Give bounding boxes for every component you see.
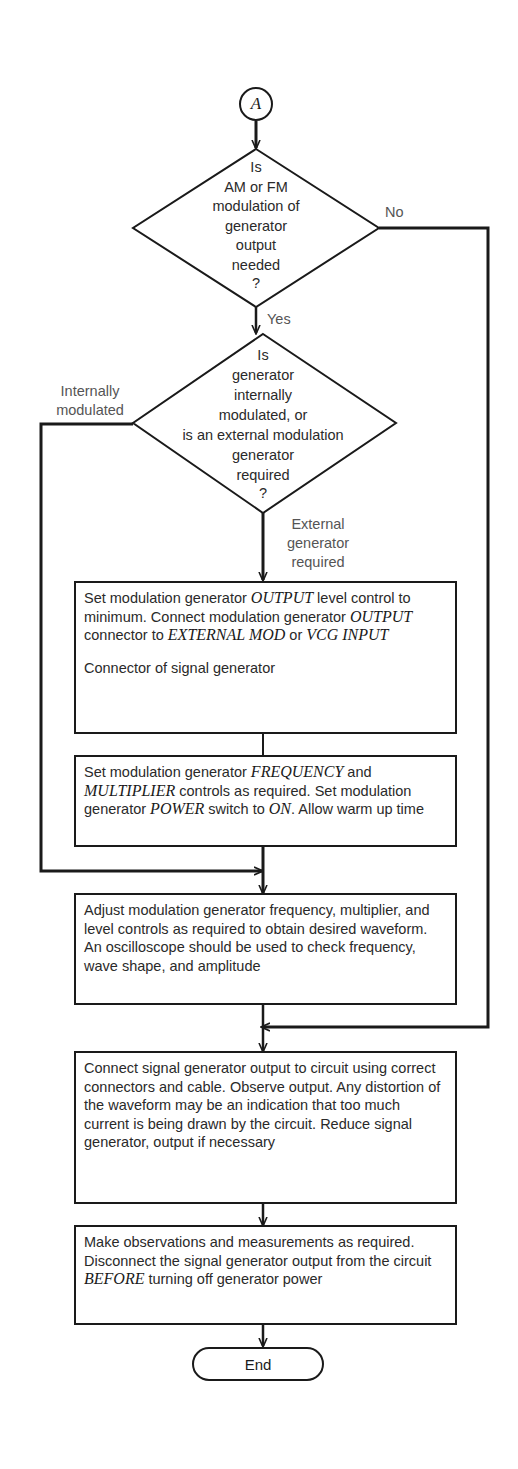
step-set-output-level: Set modulation generator OUTPUT level co… [74,581,457,734]
step-connect-signal-generator: Connect signal generator output to circu… [74,1051,457,1204]
step-set-frequency-power: Set modulation generator FREQUENCY and M… [74,755,457,847]
step-adjust-waveform: Adjust modulation generator frequency, m… [74,893,457,1005]
connector-a: A [239,87,273,121]
step-observe-disconnect: Make observations and measurements as re… [74,1225,457,1325]
yes-label: Yes [267,310,291,329]
end-terminal: End [192,1347,324,1381]
internally-modulated-label: Internally modulated [40,382,140,420]
no-label: No [385,203,404,222]
decision1-text: Is AM or FM modulation of generator outp… [176,158,336,291]
external-generator-label: External generator required [278,515,358,572]
decision2-text: Is generator internally modulated, or is… [158,345,368,501]
